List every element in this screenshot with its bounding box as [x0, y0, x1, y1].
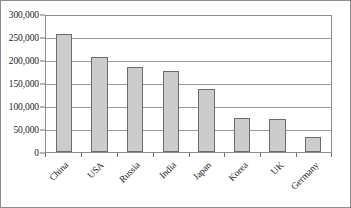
x-tick-mark: [224, 153, 225, 157]
x-label-cell: Japan: [189, 158, 225, 208]
bar-india: [163, 71, 179, 152]
y-axis: 050,000100,000150,000200,000250,000300,0…: [1, 1, 45, 153]
x-label-cell: Russia: [117, 158, 153, 208]
bar-series: [46, 16, 331, 152]
x-label-cell: China: [45, 158, 81, 208]
x-tick-mark: [260, 153, 261, 157]
x-tick-mark: [189, 153, 190, 157]
bar-usa: [91, 57, 107, 152]
y-tick-label: 0: [34, 148, 39, 158]
x-label-cell: India: [153, 158, 189, 208]
bar-slot: [295, 16, 331, 152]
x-tick-mark: [153, 153, 154, 157]
y-tick-label: 150,000: [9, 79, 39, 89]
bar-slot: [189, 16, 225, 152]
bar-slot: [224, 16, 260, 152]
bar-slot: [46, 16, 82, 152]
bar-slot: [117, 16, 153, 152]
x-tick-label-india: India: [157, 160, 178, 181]
x-tick-label-korea: Korea: [226, 160, 249, 183]
bar-korea: [234, 118, 250, 153]
x-label-cell: USA: [81, 158, 117, 208]
y-tick-label: 200,000: [9, 56, 39, 66]
x-tick-mark: [296, 153, 297, 157]
x-tick-mark: [331, 153, 332, 157]
bar-japan: [198, 89, 214, 152]
y-tick-label: 50,000: [13, 125, 39, 135]
x-tick-label-china: China: [47, 160, 70, 183]
bar-germany: [305, 137, 321, 152]
bar-uk: [269, 119, 285, 152]
x-label-cell: Korea: [224, 158, 260, 208]
x-label-cell: Germany: [296, 158, 332, 208]
x-axis-labels: ChinaUSARussiaIndiaJapanKoreaUKGermany: [45, 158, 332, 208]
bar-slot: [82, 16, 118, 152]
bar-china: [56, 34, 72, 152]
bar-slot: [153, 16, 189, 152]
x-tick-mark: [81, 153, 82, 157]
x-tick-label-uk: UK: [269, 160, 286, 177]
bar-chart-figure: 050,000100,000150,000200,000250,000300,0…: [0, 0, 351, 208]
x-tick-mark: [117, 153, 118, 157]
x-tick-label-japan: Japan: [191, 160, 213, 182]
plot-area: [45, 15, 332, 153]
x-tick-mark: [45, 153, 46, 157]
x-tick-label-russia: Russia: [117, 160, 142, 185]
y-tick-label: 100,000: [9, 102, 39, 112]
bar-slot: [260, 16, 296, 152]
y-tick-label: 300,000: [9, 10, 39, 20]
y-tick-label: 250,000: [9, 33, 39, 43]
bar-russia: [127, 67, 143, 152]
x-tick-label-usa: USA: [86, 160, 106, 180]
